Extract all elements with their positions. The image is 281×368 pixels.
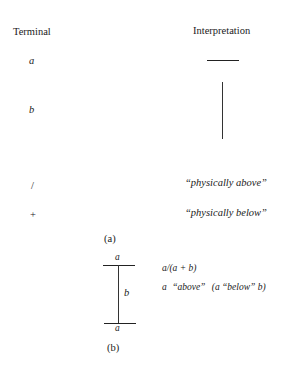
reading-paren-open: (a — [212, 282, 220, 292]
terminal-column-header: Terminal — [13, 26, 51, 37]
figure-bottom-bar — [104, 323, 136, 324]
reading-above: “above” — [172, 282, 205, 292]
figure-top-label: a — [115, 252, 120, 262]
reading-line: a “above” (a “below” b) — [162, 282, 266, 292]
terminal-slash: / — [31, 180, 34, 191]
expression: a/(a + b) — [162, 263, 196, 273]
terminal-a: a — [29, 55, 34, 66]
horizontal-line-interpretation — [207, 60, 239, 61]
physically-below-text: “physically below” — [185, 207, 267, 218]
reading-below: “below” — [222, 282, 255, 292]
reading-a: a — [162, 282, 167, 292]
figure-bottom-label: a — [115, 323, 120, 333]
caption-b: (b) — [107, 342, 119, 353]
reading-paren-close: b) — [258, 282, 266, 292]
terminal-b: b — [29, 104, 34, 115]
figure-vertical-bar — [118, 265, 119, 323]
physically-above-text: “physically above” — [185, 177, 267, 188]
terminal-plus: + — [30, 209, 36, 220]
caption-a: (a) — [104, 233, 116, 244]
figure-middle-label: b — [124, 287, 129, 298]
vertical-line-interpretation — [222, 82, 223, 139]
interpretation-column-header: Interpretation — [193, 25, 250, 36]
